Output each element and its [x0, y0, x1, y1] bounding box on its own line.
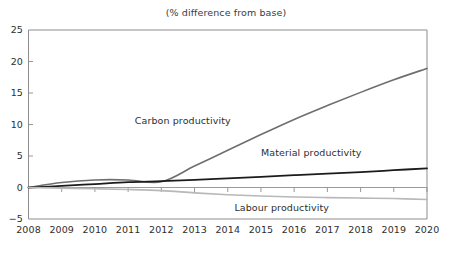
- x-tick-label: 2015: [244, 224, 278, 235]
- y-tick-label: 5: [1, 150, 23, 161]
- series-label-0: Carbon productivity: [135, 115, 231, 126]
- data-series-lines: [29, 68, 428, 199]
- y-tick-label: 20: [1, 56, 23, 67]
- x-tick-label: 2020: [410, 224, 444, 235]
- y-axis-ticks: [29, 62, 34, 188]
- x-tick-label: 2008: [12, 224, 46, 235]
- x-tick-label: 2010: [78, 224, 112, 235]
- x-tick-label: 2014: [211, 224, 245, 235]
- x-tick-label: 2012: [144, 224, 178, 235]
- series-line-0: [29, 68, 428, 187]
- x-tick-label: 2018: [344, 224, 378, 235]
- series-label-2: Labour productivity: [234, 202, 329, 213]
- series-label-1: Material productivity: [261, 147, 362, 158]
- y-tick-label: 15: [1, 87, 23, 98]
- series-line-1: [29, 168, 428, 187]
- x-tick-label: 2017: [310, 224, 344, 235]
- x-tick-label: 2011: [111, 224, 145, 235]
- y-tick-label: 25: [1, 24, 23, 35]
- y-tick-label: 0: [1, 182, 23, 193]
- y-tick-label: −5: [1, 213, 23, 224]
- x-tick-label: 2009: [45, 224, 79, 235]
- y-tick-label: 10: [1, 119, 23, 130]
- line-chart-plot: [0, 0, 452, 255]
- chart-page: (% difference from base) −50510152025 20…: [0, 0, 452, 255]
- x-tick-label: 2016: [277, 224, 311, 235]
- x-tick-label: 2013: [178, 224, 212, 235]
- x-tick-label: 2019: [377, 224, 411, 235]
